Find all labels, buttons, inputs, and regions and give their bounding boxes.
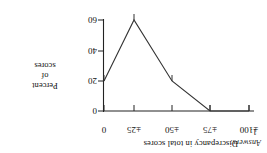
rotated-scan-page: Answers: 1. Discrepancy in total scores … <box>0 0 267 153</box>
data-series-line <box>104 20 249 111</box>
data-point-markers <box>104 14 249 111</box>
line-chart: Discrepancy in total scores Percent of s… <box>0 0 267 153</box>
chart-plot-svg <box>0 0 267 153</box>
x-axis-ticks <box>104 105 249 111</box>
